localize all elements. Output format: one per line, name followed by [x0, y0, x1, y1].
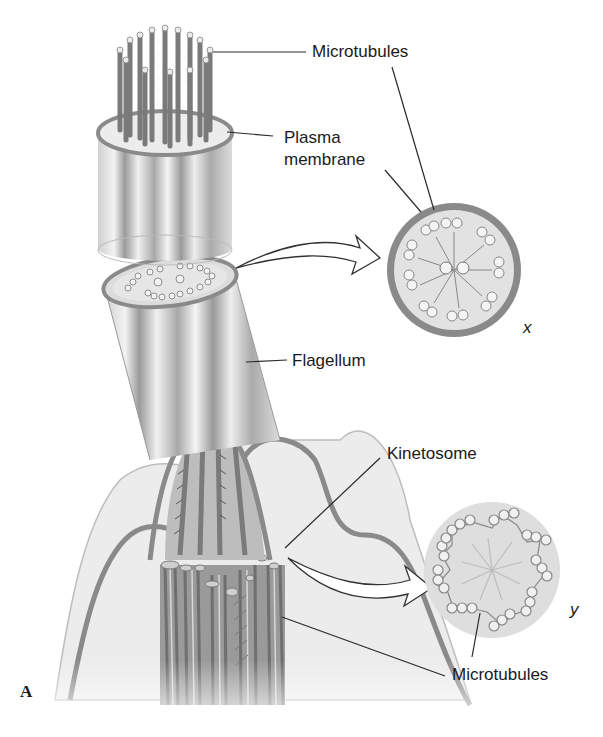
flagellum-diagram: Microtubules Plasma membrane Flagellum K… [0, 0, 603, 737]
cross-section-y [424, 502, 560, 638]
cross-section-x [387, 203, 521, 337]
label-kinetosome: Kinetosome [387, 444, 477, 464]
arrow-to-x [236, 236, 380, 274]
label-microtubules-top: Microtubules [312, 42, 408, 62]
cross-section-x-letter: x [523, 318, 532, 338]
label-flagellum: Flagellum [292, 351, 366, 371]
label-plasma-membrane-line1: Plasma [284, 128, 341, 148]
panel-letter: A [20, 682, 32, 702]
cross-section-y-letter: y [570, 600, 579, 620]
label-plasma-membrane-line2: membrane [284, 150, 365, 170]
label-microtubules-bottom: Microtubules [452, 665, 548, 685]
top-microtubules-bundle [117, 25, 213, 146]
